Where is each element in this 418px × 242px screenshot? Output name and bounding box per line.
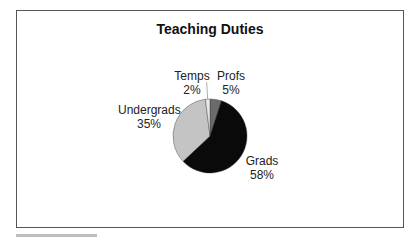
label-undergrads-pct: 35% (118, 117, 180, 131)
label-undergrads: Undergrads 35% (118, 103, 180, 131)
decorative-bar (16, 234, 97, 237)
pie-chart (0, 0, 418, 242)
label-grads-name: Grads (244, 154, 280, 168)
label-temps-pct: 2% (172, 83, 212, 97)
label-undergrads-name: Undergrads (118, 103, 180, 117)
label-temps-name: Temps (172, 69, 212, 83)
label-temps: Temps 2% (172, 69, 212, 97)
label-grads-pct: 58% (244, 168, 280, 182)
label-grads: Grads 58% (244, 154, 280, 182)
label-profs-name: Profs (214, 69, 248, 83)
label-profs: Profs 5% (214, 69, 248, 97)
pie-slices (173, 99, 247, 173)
label-profs-pct: 5% (214, 83, 248, 97)
